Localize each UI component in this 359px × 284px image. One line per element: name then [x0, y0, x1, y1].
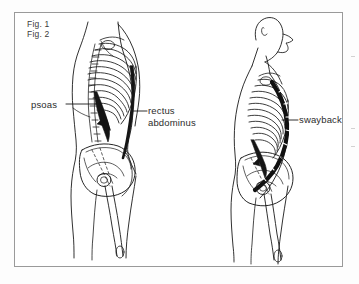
figure-1-group [71, 22, 140, 260]
page-background: Fig. 1 Fig. 2 psoas rectus abdominus swa… [0, 0, 359, 284]
figure-1-caption: Fig. 1 [27, 19, 49, 29]
label-rectus-line2: abdominus [148, 117, 196, 129]
label-swayback: swayback [299, 114, 342, 125]
margin-mark-3 [351, 146, 355, 147]
psoas-muscle [94, 92, 110, 142]
label-rectus-abdominus: rectus abdominus [148, 105, 196, 128]
label-psoas: psoas [31, 99, 57, 110]
margin-mark-1 [351, 56, 355, 57]
label-rectus-line1: rectus [148, 105, 196, 117]
swayback-spine [255, 82, 287, 190]
margin-mark-2 [351, 128, 355, 129]
figure-2-caption: Fig. 2 [27, 29, 49, 39]
figure-2-group [231, 18, 293, 264]
anatomical-illustration [0, 0, 359, 284]
